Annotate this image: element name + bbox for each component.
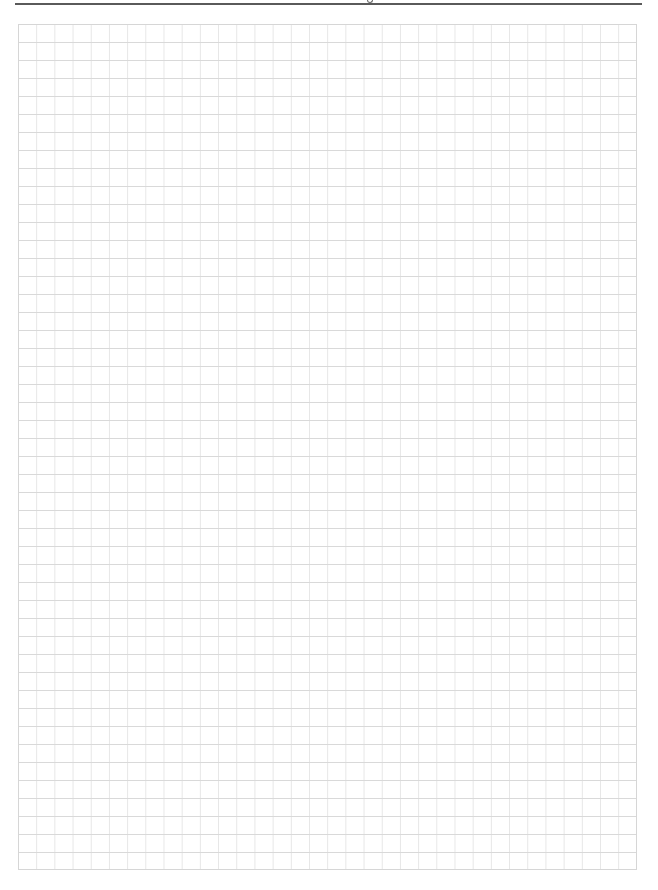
header-rule — [15, 3, 642, 5]
graph-paper-grid — [18, 24, 637, 870]
